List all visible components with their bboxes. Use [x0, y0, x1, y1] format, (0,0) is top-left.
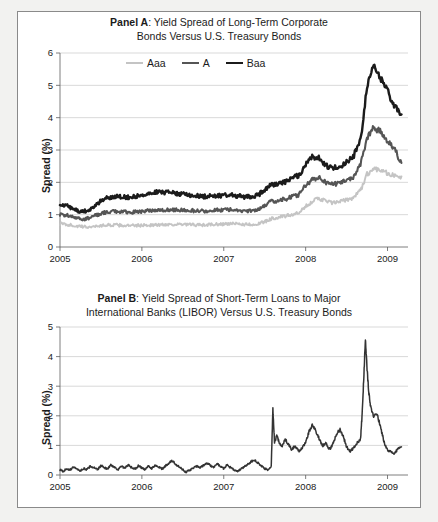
- panel-a-plot-area: Spread (%) 012345620052006200720082009 A…: [18, 43, 420, 271]
- y-tick-label: 6: [48, 47, 53, 58]
- legend-item-a[interactable]: A: [182, 57, 210, 69]
- x-tick-label: 2006: [131, 481, 152, 492]
- panel-a-title: Panel A: Yield Spread of Long-Term Corpo…: [18, 16, 420, 43]
- legend-item-baa[interactable]: Baa: [226, 57, 266, 69]
- panel-b-label: Panel B: [98, 292, 137, 304]
- legend-label: Baa: [247, 57, 266, 69]
- panel-b-svg: 01234520052006200720082009: [18, 319, 420, 499]
- y-tick-label: 0: [48, 469, 53, 480]
- legend-swatch-a-icon: [182, 62, 199, 64]
- panel-a-label: Panel A: [110, 16, 148, 28]
- figure-page: Panel A: Yield Spread of Long-Term Corpo…: [0, 0, 438, 522]
- series-line-baa: [60, 65, 401, 213]
- panel-a-title-line2: Bonds Versus U.S. Treasury Bonds: [137, 30, 302, 42]
- legend-item-aaa[interactable]: Aaa: [126, 57, 166, 69]
- y-tick-label: 0: [48, 241, 53, 252]
- y-tick-label: 5: [48, 321, 53, 332]
- legend-swatch-aaa-icon: [126, 62, 143, 64]
- x-tick-label: 2006: [131, 253, 152, 264]
- panel-b-plot-area: Spread (%) 01234520052006200720082009: [18, 319, 420, 499]
- panel-a-svg: 012345620052006200720082009: [18, 43, 420, 271]
- x-tick-label: 2005: [49, 253, 70, 264]
- series-line-libor-spread: [60, 340, 401, 473]
- panel-b-ylabel: Spread (%): [40, 390, 52, 445]
- panel-a-ylabel: Spread (%): [40, 138, 52, 193]
- panel-b: Panel B: Yield Spread of Short-Term Loan…: [18, 292, 420, 507]
- figure-card: Panel A: Yield Spread of Long-Term Corpo…: [17, 11, 421, 508]
- x-tick-label: 2009: [377, 481, 398, 492]
- y-tick-label: 4: [48, 112, 53, 123]
- panel-b-title-line2: International Banks (LIBOR) Versus U.S. …: [86, 306, 352, 318]
- x-tick-label: 2008: [295, 481, 316, 492]
- panel-a-legend: AaaABaa: [126, 57, 275, 69]
- y-tick-label: 5: [48, 80, 53, 91]
- x-tick-label: 2007: [213, 253, 234, 264]
- panel-a-title-line1: : Yield Spread of Long-Term Corporate: [148, 16, 328, 28]
- legend-label: Aaa: [147, 57, 166, 69]
- y-tick-label: 4: [48, 351, 53, 362]
- x-tick-label: 2008: [295, 253, 316, 264]
- x-tick-label: 2009: [377, 253, 398, 264]
- series-line-a: [60, 126, 401, 220]
- panel-b-title: Panel B: Yield Spread of Short-Term Loan…: [18, 292, 420, 319]
- legend-swatch-baa-icon: [226, 62, 243, 64]
- y-tick-label: 1: [48, 209, 53, 220]
- x-tick-label: 2007: [213, 481, 234, 492]
- legend-label: A: [203, 57, 210, 69]
- x-tick-label: 2005: [49, 481, 70, 492]
- panel-a: Panel A: Yield Spread of Long-Term Corpo…: [18, 16, 420, 288]
- panel-b-title-line1: : Yield Spread of Short-Term Loans to Ma…: [136, 292, 340, 304]
